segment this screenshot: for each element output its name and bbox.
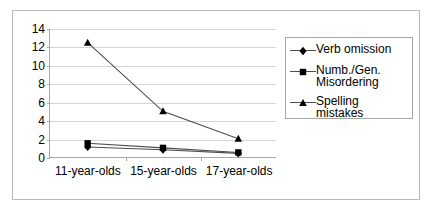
x-axis-tick-label: 17-year-olds — [206, 165, 273, 177]
y-axis-tick-label: 6 — [38, 97, 45, 109]
square-marker-icon — [160, 145, 166, 151]
y-axis-tick-label: 4 — [38, 115, 45, 127]
y-axis-tick-label: 2 — [38, 134, 45, 146]
square-marker-icon — [300, 69, 306, 75]
y-axis-tick-label: 8 — [38, 78, 45, 90]
plot-wrapper: 02468101214 11-year-olds15-year-olds17-y… — [13, 11, 288, 201]
y-axis-tick-label: 0 — [38, 152, 45, 164]
legend-label: Verb omission — [316, 43, 391, 55]
chart-frame: 02468101214 11-year-olds15-year-olds17-y… — [12, 10, 420, 200]
series-plot — [50, 29, 276, 157]
legend-key — [290, 65, 316, 78]
square-marker-icon — [235, 149, 241, 155]
triangle-marker-icon — [299, 99, 307, 106]
legend-key — [290, 96, 316, 109]
y-axis-tick-label: 10 — [32, 60, 45, 72]
x-axis-tick-label: 11-year-olds — [55, 165, 121, 177]
x-axis-tick-label: 15-year-olds — [130, 165, 197, 177]
plot-area: 02468101214 11-year-olds15-year-olds17-y… — [49, 29, 276, 158]
square-marker-icon — [297, 66, 309, 78]
legend-label: Numb./Gen. Misordering — [316, 64, 381, 88]
series-line — [88, 43, 239, 139]
legend-item[interactable]: Spelling mistakes — [290, 95, 408, 119]
legend-item[interactable]: Verb omission — [290, 43, 408, 57]
legend-key — [290, 44, 316, 57]
triangle-marker-icon — [297, 97, 309, 109]
legend: Verb omissionNumb./Gen. MisorderingSpell… — [285, 37, 413, 119]
diamond-marker-icon — [299, 47, 306, 55]
legend-label: Spelling mistakes — [316, 95, 408, 119]
legend-item[interactable]: Numb./Gen. Misordering — [290, 64, 408, 88]
y-axis-tick-label: 14 — [32, 23, 45, 35]
square-marker-icon — [84, 140, 90, 146]
series-group — [84, 39, 242, 142]
triangle-marker-icon — [84, 39, 92, 46]
y-axis-tick-label: 12 — [32, 41, 45, 53]
y-axis-tick-mark — [47, 158, 50, 159]
x-axis-tick-mark — [126, 157, 127, 161]
x-axis-tick-mark — [201, 157, 202, 161]
diamond-marker-icon — [297, 45, 309, 57]
